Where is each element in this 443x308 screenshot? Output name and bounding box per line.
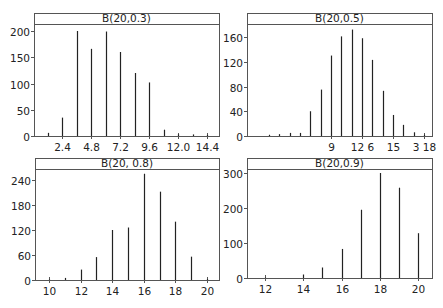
y-tick-label: 120 <box>11 225 31 237</box>
x-tick-label: 9.6 <box>141 141 158 153</box>
binomial-charts-figure: B(20,0.3) 0501001502002.44.87.29.612.014… <box>0 0 443 308</box>
y-tick-label: 0 <box>23 131 30 143</box>
x-tick-label: 18 <box>169 285 182 297</box>
y-tick-label: 0 <box>236 131 243 143</box>
x-tick-label: 2.4 <box>54 141 71 153</box>
chart-binomial-20-0.5: B(20,0.5) 04080120160912 6153 18 <box>223 12 436 153</box>
x-tick-label: 20 <box>201 285 214 297</box>
x-tick-label: 18 <box>374 283 387 295</box>
y-tick-label: 160 <box>223 32 243 44</box>
chart-binomial-20-0.8: B(20, 0.8) 060120180240101214161820 <box>11 157 220 297</box>
y-tick-label: 180 <box>11 200 31 212</box>
x-tick-label: 16 <box>138 285 152 297</box>
y-tick-label: 300 <box>223 168 243 180</box>
chart-title: B(20,0.5) <box>315 12 364 24</box>
chart-title: B(20,0.9) <box>315 157 364 169</box>
y-tick-label: 100 <box>10 79 30 91</box>
x-tick-label: 12 <box>75 285 88 297</box>
x-tick-label: 14 <box>106 285 120 297</box>
y-tick-label: 240 <box>11 175 31 187</box>
x-tick-label: 16 <box>336 283 350 295</box>
y-tick-label: 50 <box>17 105 30 117</box>
x-tick-label: 12.0 <box>167 141 190 153</box>
y-tick-label: 0 <box>236 273 243 285</box>
chart-binomial-20-0.3: B(20,0.3) 0501001502002.44.87.29.612.014… <box>10 12 220 153</box>
x-tick-label: 10 <box>43 285 56 297</box>
y-tick-label: 120 <box>223 57 243 69</box>
x-tick-label: 3 18 <box>413 141 436 153</box>
x-tick-label: 9 <box>328 141 335 153</box>
chart-title: B(20, 0.8) <box>101 157 153 169</box>
x-tick-label: 14 <box>297 283 311 295</box>
y-tick-label: 80 <box>230 82 243 94</box>
plot-area <box>248 25 433 137</box>
y-tick-label: 40 <box>230 106 243 118</box>
x-tick-label: 15 <box>387 141 400 153</box>
x-tick-label: 20 <box>412 283 425 295</box>
y-tick-label: 200 <box>10 26 30 38</box>
chart-binomial-20-0.9: B(20,0.9) 01002003001214161820 <box>223 157 433 295</box>
x-tick-label: 14.4 <box>196 141 220 153</box>
x-tick-label: 12 6 <box>351 141 375 153</box>
x-tick-label: 12 <box>259 283 272 295</box>
plot-area <box>248 170 433 279</box>
y-tick-label: 200 <box>223 203 243 215</box>
y-tick-label: 0 <box>24 275 31 287</box>
chart-title: B(20,0.3) <box>102 12 151 24</box>
x-tick-label: 4.8 <box>83 141 100 153</box>
y-tick-label: 60 <box>18 250 31 262</box>
y-tick-label: 100 <box>223 238 243 250</box>
y-tick-label: 150 <box>10 52 30 64</box>
x-tick-label: 7.2 <box>112 141 129 153</box>
